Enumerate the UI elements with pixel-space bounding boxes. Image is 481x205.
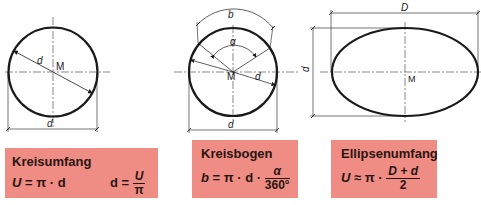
circle-diagram: M d d [5, 17, 110, 132]
fraction: D + d 2 [386, 165, 420, 192]
svg-text:b: b [228, 9, 234, 20]
svg-text:d: d [228, 119, 234, 130]
formula-ellipse-circumference: U ≈ π · D + d 2 [341, 165, 420, 192]
box-title: Kreisumfang [12, 154, 91, 169]
svg-text:d: d [255, 71, 261, 82]
svg-text:M: M [56, 61, 64, 72]
fraction: U π [133, 170, 146, 197]
ellipse-diagram: M D d [300, 2, 481, 122]
kreisbogen-box: Kreisbogen b = π · d · α 360° [192, 140, 298, 198]
box-title: Kreisbogen [201, 146, 273, 161]
kreisumfang-box: Kreisumfang U = π · d d = U π [5, 148, 158, 198]
formula-arc-length: b = π · d · α 360° [201, 165, 290, 192]
formula-circumference: U = π · d [12, 175, 66, 190]
formula-diameter: d = U π [110, 170, 145, 197]
geometry-drawings: M d d M b α d d [0, 0, 481, 140]
svg-text:d: d [37, 55, 43, 66]
svg-text:M: M [227, 71, 235, 82]
fraction: α 360° [265, 165, 290, 192]
svg-text:α: α [230, 36, 236, 47]
svg-text:D: D [401, 2, 408, 13]
ellipsenumfang-box: Ellipsenumfang U ≈ π · D + d 2 [331, 140, 437, 198]
box-title: Ellipsenumfang [341, 146, 438, 161]
svg-text:d: d [300, 66, 311, 72]
arc-diagram: M b α d d [174, 9, 298, 133]
svg-text:M: M [408, 74, 416, 84]
svg-text:d: d [47, 118, 53, 129]
